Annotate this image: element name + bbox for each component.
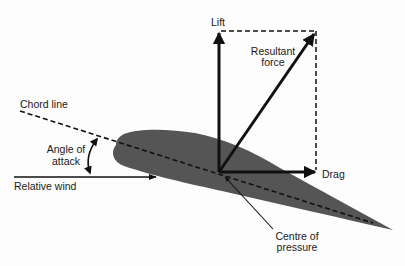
airfoil-shape [113,130,393,230]
drag-label: Drag [322,168,345,180]
airfoil-forces-diagram: Lift Resultant force Chord line Angle of… [0,0,405,266]
angle-of-attack-arc [88,139,97,173]
chord-line [20,111,373,223]
relative-wind-label: Relative wind [14,180,77,192]
chord-line-label: Chord line [20,98,68,110]
centre-of-pressure-label-line2: pressure [277,241,318,253]
diagram-canvas: Lift Resultant force Chord line Angle of… [0,0,405,266]
lift-label: Lift [211,16,225,28]
resultant-force-label-line2: force [261,56,285,68]
angle-of-attack-label-line2: attack [52,155,81,167]
angle-of-attack-label-line1: Angle of [47,143,86,155]
